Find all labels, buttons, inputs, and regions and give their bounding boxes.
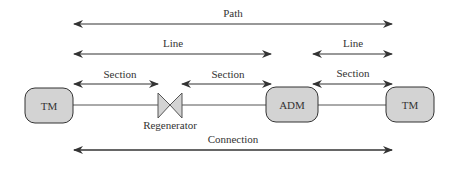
section-1-label: Section <box>104 68 137 80</box>
adm-label: ADM <box>279 99 305 111</box>
tm-left-label: TM <box>41 100 58 112</box>
regenerator-icon <box>158 93 182 118</box>
section-2-label: Section <box>212 68 245 80</box>
line-2-label: Line <box>343 37 363 49</box>
line-1-label: Line <box>163 37 183 49</box>
tm-right-label: TM <box>402 99 419 111</box>
regenerator-label: Regenerator <box>143 119 197 131</box>
section-3-label: Section <box>337 67 370 79</box>
connection-label: Connection <box>208 133 259 145</box>
path-label: Path <box>223 7 243 19</box>
